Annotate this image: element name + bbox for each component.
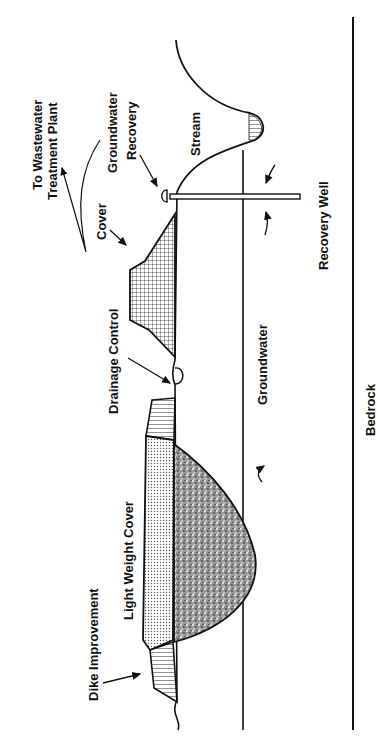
dike-hatch-upper <box>146 398 175 440</box>
label-cover: Cover <box>94 203 109 240</box>
groundwater-recovery-arrow <box>140 155 157 186</box>
label-dike-improvement: Dike Improvement <box>86 588 101 701</box>
flow-arrow-waste <box>258 466 264 482</box>
cover-area <box>130 214 175 357</box>
label-to-wastewater: To Wastewater <box>30 100 45 190</box>
label-recovery: Recovery <box>124 101 139 160</box>
drainage-control-ditch <box>175 368 183 384</box>
recovery-well-cap <box>162 190 167 202</box>
drainage-control-arrow <box>128 358 170 383</box>
cover-arrow <box>110 230 126 245</box>
dike-hatch-lower <box>150 642 177 702</box>
label-light-weight-cover: Light Weight Cover <box>121 501 136 620</box>
remediation-diagram: To Wastewater Treatment Plant Groundwate… <box>0 0 377 747</box>
light-weight-cover-area <box>143 436 174 650</box>
label-groundwater: Groundwater <box>255 324 270 405</box>
label-recovery-well: Recovery Well <box>316 181 331 270</box>
flow-arrow-lower <box>265 212 267 235</box>
label-treatment-plant: Treatment Plant <box>45 102 60 200</box>
label-drainage-control: Drainage Control <box>106 309 121 414</box>
label-bedrock: Bedrock <box>363 383 377 436</box>
label-stream: Stream <box>188 112 203 156</box>
label-groundwater-recovery: Groundwater <box>105 92 120 173</box>
recovery-well-pipe <box>170 194 300 199</box>
dike-improvement-arrow <box>103 674 140 683</box>
flow-arrow-upper <box>266 165 275 183</box>
